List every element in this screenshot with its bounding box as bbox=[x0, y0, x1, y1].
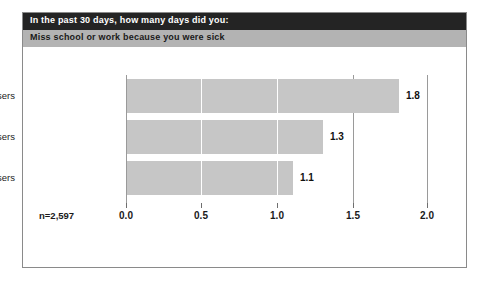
tick-mark-2-0 bbox=[427, 203, 428, 208]
category-label-light-users: Light users bbox=[0, 131, 15, 142]
value-label-nonusers: 1.1 bbox=[300, 172, 314, 183]
title-suffix: did you: bbox=[189, 15, 228, 25]
chart-subtitle-bar: Miss school or work because you were sic… bbox=[23, 30, 466, 47]
bar-heavy-users bbox=[127, 79, 399, 113]
chart-title-bar: In the past 30 days, how many days did y… bbox=[23, 13, 466, 30]
gridline-2-0 bbox=[427, 75, 428, 203]
sample-size-annotation: n=2,597 bbox=[39, 210, 74, 221]
xtick-label-0-0: 0.0 bbox=[119, 210, 133, 221]
xtick-label-0-5: 0.5 bbox=[194, 210, 208, 221]
category-label-heavy-users: Heavy users bbox=[0, 90, 15, 101]
chart-panel: In the past 30 days, how many days did y… bbox=[22, 12, 467, 268]
category-label-nonusers: Nonusers bbox=[0, 172, 15, 183]
title-prefix: In the past 30 days, how many bbox=[30, 15, 168, 25]
tick-mark-1-5 bbox=[353, 203, 354, 208]
xtick-label-1-0: 1.0 bbox=[270, 210, 284, 221]
xtick-label-1-5: 1.5 bbox=[346, 210, 360, 221]
title-emphasis: days bbox=[168, 15, 189, 25]
gridline-1-0 bbox=[277, 75, 278, 203]
bar-nonusers bbox=[127, 161, 293, 195]
tick-mark-1-0 bbox=[277, 203, 278, 208]
tick-mark-0-5 bbox=[201, 203, 202, 208]
page-title: In the past 30 days, how many days did y… bbox=[30, 15, 229, 25]
value-label-heavy-users: 1.8 bbox=[406, 90, 420, 101]
chart-subtitle: Miss school or work because you were sic… bbox=[30, 32, 225, 42]
bar-light-users bbox=[127, 120, 323, 154]
tick-mark-0-0 bbox=[126, 203, 127, 208]
xtick-label-2-0: 2.0 bbox=[420, 210, 434, 221]
value-label-light-users: 1.3 bbox=[330, 131, 344, 142]
gridline-0-5 bbox=[201, 75, 202, 203]
plot-area: Heavy users Light users Nonusers 1.8 1.3… bbox=[23, 47, 466, 269]
